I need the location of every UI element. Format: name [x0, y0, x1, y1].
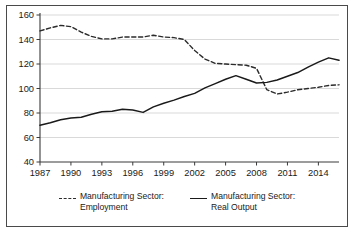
svg-text:160: 160	[18, 10, 34, 20]
svg-text:2008: 2008	[246, 168, 267, 178]
dashed-line-swatch-icon	[59, 194, 76, 203]
figure-container: 406080100120140160 198719901993199619992…	[0, 0, 355, 231]
svg-text:80: 80	[24, 108, 34, 118]
svg-text:1987: 1987	[30, 168, 51, 178]
svg-text:120: 120	[18, 59, 34, 69]
svg-text:2011: 2011	[277, 168, 297, 178]
svg-text:1999: 1999	[153, 168, 174, 178]
legend-label-real-output: Manufacturing Sector: Real Output	[211, 191, 295, 212]
svg-text:1996: 1996	[122, 168, 143, 178]
chart-frame: 406080100120140160 198719901993199619992…	[6, 5, 348, 227]
chart-legend: Manufacturing Sector: Employment Manufac…	[7, 191, 347, 212]
y-axis-tick-labels: 406080100120140160	[18, 10, 34, 167]
legend-label-employment: Manufacturing Sector: Employment	[80, 191, 164, 212]
svg-text:2005: 2005	[215, 168, 236, 178]
x-axis	[40, 162, 339, 166]
svg-text:2002: 2002	[184, 168, 205, 178]
legend-item-real-output: Manufacturing Sector: Real Output	[190, 191, 295, 212]
svg-text:1993: 1993	[92, 168, 113, 178]
series-lines	[40, 25, 339, 125]
y-axis	[37, 13, 41, 162]
x-axis-tick-labels: 1987199019931996199920022005200820112014	[30, 168, 329, 178]
svg-text:60: 60	[24, 133, 34, 143]
svg-text:140: 140	[18, 35, 34, 45]
clipped-caption-text	[0, 0, 355, 4]
svg-text:40: 40	[24, 157, 34, 167]
svg-text:1990: 1990	[61, 168, 82, 178]
svg-text:2014: 2014	[308, 168, 329, 178]
legend-item-employment: Manufacturing Sector: Employment	[59, 191, 164, 212]
svg-text:100: 100	[18, 84, 34, 94]
solid-line-swatch-icon	[190, 194, 207, 203]
